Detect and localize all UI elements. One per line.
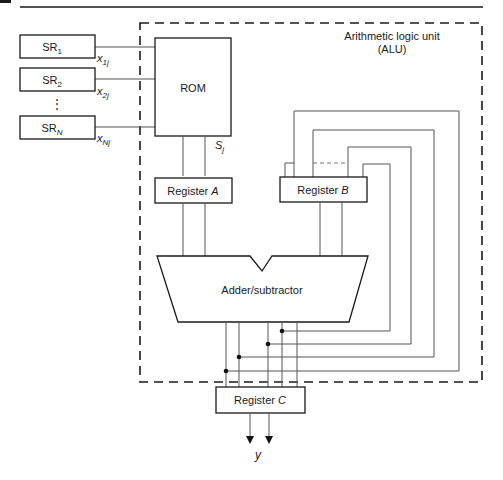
output-y-label: y: [254, 448, 262, 462]
register-a: Register A: [155, 178, 232, 203]
register-b-label: Register B: [297, 184, 348, 196]
x2j-label: x2j: [96, 85, 109, 100]
adder-label: Adder/subtractor: [221, 284, 303, 296]
shift-register-1: SR1: [20, 35, 95, 58]
register-c: Register C: [216, 387, 305, 413]
feedback-wires-top: [285, 111, 459, 371]
x1j-label: x1j: [96, 52, 109, 67]
output-arrows: [246, 413, 273, 444]
register-c-label: Register C: [234, 394, 286, 406]
junction-dot-2: [266, 342, 271, 347]
shift-register-2: SR2: [20, 68, 95, 91]
junction-dot-3: [237, 355, 242, 360]
register-a-label: Register A: [167, 185, 218, 197]
junction-dot-4: [224, 369, 229, 374]
alu-label-line1: Arithmetic logic unit: [344, 30, 439, 42]
xnj-label: xNj: [96, 132, 110, 147]
alu-block-diagram: Arithmetic logic unit (ALU) SR1 SR2 ⋮ SR…: [0, 0, 503, 480]
corner-mark: [0, 0, 11, 3]
feedback-wires-bottom: [226, 331, 459, 371]
register-b: Register B: [280, 177, 367, 202]
junction-dot-1: [280, 329, 285, 334]
shift-register-n: SRN: [20, 116, 95, 139]
arrow-down-icon: [265, 436, 273, 444]
alu-label-line2: (ALU): [378, 43, 407, 55]
sr-ellipsis: ⋮: [51, 97, 63, 111]
adder-output-wires: [226, 322, 297, 388]
arrow-down-icon: [246, 436, 254, 444]
rom-label: ROM: [180, 82, 206, 94]
sj-label: Sj: [215, 139, 224, 154]
adder-subtractor: Adder/subtractor: [157, 256, 368, 322]
rom-block: ROM: [155, 38, 231, 136]
